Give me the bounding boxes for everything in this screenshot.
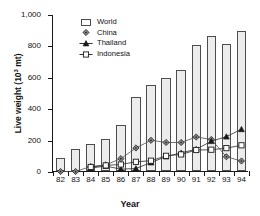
y-axis-tick-label: 800 [28, 41, 41, 50]
legend-label: World [97, 17, 117, 28]
filled-diamond-marker [178, 139, 184, 145]
y-axis-title-unit: mt) [13, 53, 23, 69]
open-square-marker [194, 147, 199, 152]
x-axis-title: Year [0, 199, 260, 209]
open-square-marker [83, 51, 88, 56]
y-axis-title: Live weight (103 mt) [13, 28, 24, 158]
y-axis-tick: 600 [48, 78, 53, 79]
filled-diamond-marker [82, 30, 88, 36]
open-square-marker [209, 147, 214, 152]
open-square-marker [224, 146, 229, 151]
open-square-marker [103, 163, 108, 168]
chart-legend: WorldChinaThailandIndonesia [78, 17, 130, 59]
y-axis-tick-label: 400 [28, 104, 41, 113]
y-axis-tick-label: 200 [28, 136, 41, 145]
filled-triangle-key [78, 39, 93, 48]
legend-item-china: China [78, 28, 130, 39]
legend-item-world: World [78, 17, 130, 28]
filled-triangle-icon [79, 39, 93, 48]
y-axis-tick-label: 1,000 [21, 10, 41, 19]
open-square-key [78, 50, 93, 59]
y-axis-tick: 800 [48, 46, 53, 47]
open-square-marker [88, 164, 93, 169]
filled-diamond-marker [118, 156, 124, 162]
filled-triangle-marker [223, 134, 229, 139]
filled-diamond-marker [73, 168, 79, 174]
open-bar-key [78, 19, 93, 26]
legend-label: Indonesia [97, 49, 130, 60]
x-axis-tick-label: 94 [231, 175, 251, 184]
filled-diamond-marker [238, 158, 244, 164]
legend-item-thailand: Thailand [78, 38, 130, 49]
open-square-marker [133, 159, 138, 164]
y-axis-tick: 400 [48, 109, 53, 110]
filled-diamond-marker [133, 145, 139, 151]
y-axis-tick: 200 [48, 141, 53, 142]
filled-diamond-key [78, 28, 93, 37]
filled-diamond-marker [57, 168, 63, 174]
open-square-marker [118, 162, 123, 167]
filled-diamond-icon [79, 28, 93, 37]
chart-figure: Live weight (103 mt) 02004006008001,000 … [0, 0, 260, 216]
open-square-line-icon [79, 50, 93, 59]
open-square-marker [239, 143, 244, 148]
open-square-marker [179, 152, 184, 157]
y-axis-tick: 1,000 [48, 15, 53, 16]
y-axis-title-exponent: 3 [13, 69, 19, 72]
y-axis-title-main: Live weight (10 [13, 72, 23, 133]
filled-diamond-marker [163, 139, 169, 145]
y-axis-tick-label: 0 [37, 167, 41, 176]
filled-diamond-marker [148, 137, 154, 143]
legend-label: China [97, 28, 117, 39]
open-square-marker [163, 153, 168, 158]
filled-triangle-marker [239, 126, 245, 131]
legend-item-indonesia: Indonesia [78, 49, 130, 60]
open-bar-icon [81, 19, 91, 26]
filled-diamond-marker [193, 134, 199, 140]
legend-label: Thailand [97, 38, 126, 49]
y-axis-tick-label: 600 [28, 73, 41, 82]
open-square-marker [148, 158, 153, 163]
